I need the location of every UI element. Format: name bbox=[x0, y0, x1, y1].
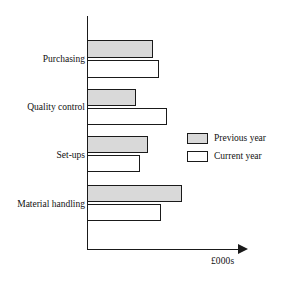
bar-material-handling-previous-year bbox=[87, 185, 182, 202]
bar-quality-control-previous-year bbox=[87, 89, 136, 106]
legend: Previous year Current year bbox=[187, 129, 266, 165]
bar-purchasing-current-year bbox=[87, 60, 159, 78]
category-label-quality-control: Quality control bbox=[0, 102, 85, 112]
legend-label-previous-year: Previous year bbox=[214, 133, 266, 143]
x-axis-line bbox=[87, 249, 240, 250]
category-label-material-handling: Material handling bbox=[0, 199, 85, 209]
legend-item-previous-year: Previous year bbox=[187, 129, 266, 147]
bar-purchasing-previous-year bbox=[87, 40, 153, 58]
x-axis-arrow-icon bbox=[238, 244, 248, 254]
bar-chart: £000s Purchasing Quality control Set-ups… bbox=[0, 0, 285, 285]
legend-swatch-current-year-icon bbox=[187, 151, 208, 162]
bar-material-handling-current-year bbox=[87, 204, 161, 221]
bar-set-ups-previous-year bbox=[87, 136, 148, 153]
bar-quality-control-current-year bbox=[87, 108, 167, 125]
legend-swatch-previous-year-icon bbox=[187, 133, 208, 144]
legend-item-current-year: Current year bbox=[187, 147, 266, 165]
category-label-purchasing: Purchasing bbox=[0, 54, 85, 64]
bar-set-ups-current-year bbox=[87, 155, 140, 172]
x-axis-unit-label: £000s bbox=[211, 256, 234, 266]
category-label-set-ups: Set-ups bbox=[0, 150, 85, 160]
legend-label-current-year: Current year bbox=[214, 151, 262, 161]
